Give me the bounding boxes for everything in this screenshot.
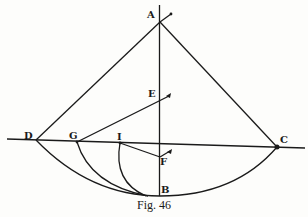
- label-I: I: [117, 132, 122, 142]
- label-C: C: [280, 135, 288, 145]
- label-A: A: [147, 10, 155, 20]
- label-G: G: [69, 131, 78, 141]
- arrow-A-tip-icon: [170, 13, 173, 16]
- label-D: D: [24, 131, 33, 141]
- point-G-dot: [76, 141, 79, 144]
- arrow-F-tip-icon: [167, 149, 172, 154]
- point-I-dot: [119, 142, 122, 145]
- line-AC: [160, 22, 277, 147]
- line-GE: [77, 96, 169, 142]
- horizontal-line: [7, 139, 305, 148]
- geometric-diagram: [0, 0, 308, 217]
- label-F: F: [160, 157, 167, 167]
- label-B: B: [161, 185, 169, 195]
- line-IF: [120, 143, 160, 157]
- arc-DB-C: [36, 140, 277, 196]
- figure-46: A E D G I C F B Fig. 46: [0, 0, 308, 217]
- figure-caption: Fig. 46: [137, 199, 171, 211]
- line-AD: [36, 22, 160, 140]
- point-C-dot: [275, 145, 280, 150]
- arc-GB: [77, 142, 148, 196]
- line-A-pointer: [160, 14, 171, 22]
- label-E: E: [148, 89, 156, 99]
